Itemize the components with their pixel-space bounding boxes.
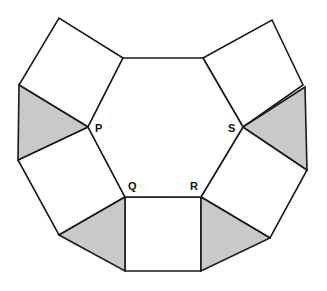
vertex-label-q: Q (128, 180, 137, 192)
geometry-diagram: P S Q R (0, 0, 327, 291)
vertex-label-r: R (190, 180, 198, 192)
vertex-label-p: P (95, 122, 102, 134)
vertex-label-s: S (228, 122, 235, 134)
figure-root: P S Q R (0, 0, 327, 291)
square-bottom-center (125, 197, 201, 271)
